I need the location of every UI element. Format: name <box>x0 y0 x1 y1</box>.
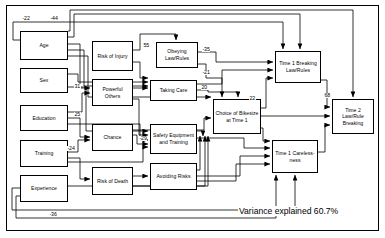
node-obeying-law-rules[interactable]: Obeying Law/Rules <box>156 42 198 68</box>
coefficient-label: -35 <box>202 47 210 52</box>
node-label-time-1-breaking-law-rules: Time 1 Breaking Law/Rules <box>277 60 319 73</box>
coefficient-label: -44 <box>50 16 58 21</box>
node-risk-of-injury[interactable]: Risk of Injury <box>92 41 133 71</box>
edge-age-powerful <box>68 44 90 88</box>
node-choice-of-bikesize-at-time-1[interactable]: Choice of Bikesize at Time 1 <box>213 99 261 134</box>
edge-education-powerful <box>68 93 90 112</box>
edge-takingcare-choice <box>197 90 238 97</box>
node-label-time-2-law-rule-breaking: Time 2 Law/Rule Breaking <box>334 107 372 127</box>
node-label-time-1-carelessness: Time 1 Careless- ness <box>274 150 316 163</box>
edge-avoiding-choice <box>197 136 200 170</box>
coefficient-label: -22 <box>22 16 30 21</box>
node-training[interactable]: Training <box>20 140 68 167</box>
path-diagram-figure: Age Sex Education Training Experience Ri… <box>0 0 385 238</box>
node-label-sex: Sex <box>40 77 49 84</box>
node-label-education: Education <box>32 115 55 122</box>
coefficient-label: 55 <box>143 43 150 48</box>
coefficient-label: 20 <box>201 85 208 90</box>
node-label-training: Training <box>35 150 54 157</box>
node-time-2-law-rule-breaking[interactable]: Time 2 Law/Rule Breaking <box>332 99 374 134</box>
edge-choice-t1break <box>261 78 273 108</box>
edge-riskinjury-takingcare <box>133 62 148 78</box>
node-label-experience: Experience <box>31 185 57 192</box>
coefficient-label: -21 <box>202 70 210 75</box>
edge-choice-t1care <box>261 128 270 141</box>
node-label-taking-care: Taking Care <box>160 87 188 94</box>
node-label-safety-equipment-and-training: Safety Equipment and Training <box>152 132 195 145</box>
node-chance[interactable]: Chance <box>92 124 133 151</box>
node-label-avoiding-risks: Avoiding Risks <box>156 173 190 180</box>
edge-training-riskdeath <box>68 158 90 179</box>
node-education[interactable]: Education <box>20 105 68 131</box>
node-taking-care[interactable]: Taking Care <box>150 80 197 101</box>
node-risk-of-death[interactable]: Risk of Death <box>92 167 133 195</box>
coefficient-label: 31 <box>74 84 81 89</box>
node-label-powerful-others: Powerful Others <box>94 86 131 99</box>
coefficient-label: 22 <box>249 96 256 101</box>
node-label-risk-of-death: Risk of Death <box>97 178 128 185</box>
node-time-1-breaking-law-rules[interactable]: Time 1 Breaking Law/Rules <box>275 51 321 83</box>
node-label-choice-of-bikesize-at-time-1: Choice of Bikesize at Time 1 <box>215 110 259 123</box>
edge-obeying-t1break <box>198 52 273 62</box>
node-label-chance: Chance <box>104 134 122 141</box>
node-time-1-carelessness[interactable]: Time 1 Careless- ness <box>272 140 318 173</box>
coefficient-label: -29 <box>139 136 147 141</box>
node-label-obeying-law-rules: Obeying Law/Rules <box>158 48 196 61</box>
variance-explained-note: Variance explained 60.7% <box>238 206 339 216</box>
node-powerful-others[interactable]: Powerful Others <box>92 79 133 106</box>
node-experience[interactable]: Experience <box>20 175 68 202</box>
node-avoiding-risks[interactable]: Avoiding Risks <box>150 163 197 190</box>
coefficient-label: -24 <box>67 146 75 151</box>
coefficient-label: 25 <box>74 112 81 117</box>
coefficient-label: 68 <box>324 93 331 98</box>
node-sex[interactable]: Sex <box>20 68 68 93</box>
node-label-age: Age <box>39 42 48 49</box>
node-age[interactable]: Age <box>20 31 68 60</box>
edge-safety-choice <box>197 131 203 136</box>
edge-t1care-t2break <box>318 125 330 152</box>
coefficient-label: -36 <box>49 212 57 217</box>
node-safety-equipment-and-training[interactable]: Safety Equipment and Training <box>150 124 197 154</box>
edge-education-chance <box>68 118 90 137</box>
node-label-risk-of-injury: Risk of Injury <box>97 53 127 60</box>
